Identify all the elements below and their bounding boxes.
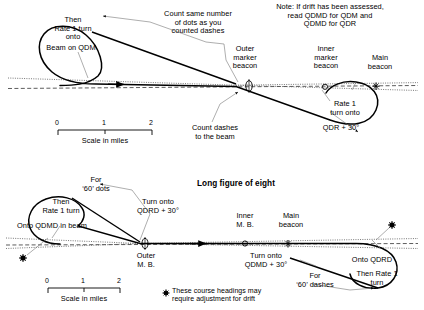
scale-tick-bottom-0: 0: [45, 277, 49, 284]
leader-drift-right: [376, 228, 389, 240]
count-dashes-label: Count dashes to the beam: [178, 124, 252, 141]
top-loop-turn-label: Then Rate 1 turn onto: [36, 16, 110, 42]
track-arrow-descent-top: [170, 66, 182, 72]
for-60-dots-label: For ‘60’ dots: [70, 176, 122, 193]
onto-qdmd-in-beam-label: Onto QDMD in beam: [17, 222, 127, 231]
turn-onto-qdrd-label: Turn onto QDRD + 30°: [120, 198, 196, 215]
outer-mb-label: Outer M. B.: [120, 252, 172, 269]
scale-tick-bottom-1: 1: [81, 277, 85, 284]
top-beam-on-qdm-label: Beam on QDM: [28, 44, 114, 53]
drift-marker-icon-legend: [163, 290, 170, 297]
scale-bar-bottom: [48, 288, 120, 293]
drift-note: Note: If drift has been assessed, read Q…: [240, 3, 420, 29]
turn-onto-qdmd-label: Turn onto QDMD + 30°: [224, 252, 308, 269]
qdr-plus-30-label: QDR + 30°: [310, 124, 372, 133]
main-beacon-label-bottom: Main beacon: [266, 212, 316, 229]
inner-mb-label: Inner M. B.: [222, 212, 268, 229]
drift-marker-icon-right: [388, 221, 396, 229]
bottom-loop-turn-label: Then Rate 1 turn: [22, 198, 100, 215]
scale-caption-top: Scale in miles: [65, 137, 145, 146]
scale-bar-top: [58, 130, 152, 135]
figure-title: Long figure of eight: [174, 180, 298, 189]
inner-marker-beacon-label: Inner marker beacon: [300, 45, 352, 71]
drift-footnote: These course headings may require adjust…: [172, 287, 302, 303]
main-beacon-icon-bottom: [284, 240, 291, 248]
scale-caption-bottom: Scale in miles: [44, 295, 124, 304]
main-beacon-icon-top: [372, 83, 379, 91]
beam-upper-edge-bottom: [6, 238, 418, 244]
track-arrow-bottom-left: [100, 212, 112, 220]
leader-count-dashes-top: [212, 92, 238, 122]
scale-tick-top-1: 1: [102, 119, 106, 126]
scale-tick-top-2: 2: [149, 119, 153, 126]
main-beacon-label: Main beacon: [356, 54, 404, 71]
then-rate1-turn-label: Then Rate 1 turn: [346, 270, 408, 287]
outbound-leg-top: [92, 32, 236, 84]
leader-drift-left: [27, 238, 48, 255]
drift-marker-icon-left: [19, 254, 27, 262]
onto-qdrd-label: Onto QDRD: [340, 256, 404, 265]
diagram-canvas: Then Rate 1 turn onto Beam on QDM Count …: [0, 0, 424, 310]
outer-marker-beacon-label: Outer marker beacon: [216, 45, 274, 71]
scale-tick-bottom-2: 2: [117, 277, 121, 284]
count-dots-label: Count same number of dots as you counted…: [146, 10, 250, 36]
scale-tick-top-0: 0: [55, 119, 59, 126]
rate1-turn-onto-label: Rate 1 turn onto: [318, 100, 372, 117]
inner-marker-beacon-icon-top: [322, 84, 327, 89]
leader-beam-on-qdm-top: [78, 52, 88, 78]
